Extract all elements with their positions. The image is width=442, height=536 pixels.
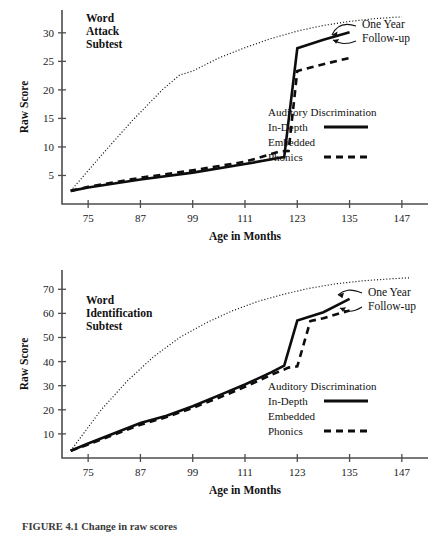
- x-axis-tick-label: 99: [187, 212, 199, 224]
- y-axis-tick-label: 30: [43, 380, 55, 392]
- x-axis-tick-label: 87: [135, 212, 147, 224]
- y-axis-title: Raw Score: [18, 81, 30, 134]
- chart-panel-word-identification: 10203040506070758799111123135147Age in M…: [0, 262, 442, 514]
- y-axis-tick-label: 25: [43, 55, 55, 67]
- x-axis-tick-label: 123: [289, 466, 306, 478]
- annotation-line: Follow-up: [368, 300, 416, 313]
- legend-label: In-Depth: [268, 395, 308, 407]
- legend-label: Phonics: [268, 425, 303, 437]
- y-axis-title: Raw Score: [18, 338, 30, 391]
- y-axis-tick-label: 50: [43, 331, 55, 343]
- chart-axes: [62, 270, 428, 458]
- y-axis-tick-label: 5: [49, 169, 55, 181]
- figure-caption: FIGURE 4.1 Change in raw scores: [22, 521, 422, 532]
- legend-label: Auditory Discrimination: [268, 380, 377, 392]
- annotation-arrow-head: [338, 293, 344, 299]
- panel-title-line: Attack: [86, 25, 120, 37]
- y-axis-tick-label: 10: [43, 141, 55, 153]
- legend-label: Embedded: [268, 410, 316, 422]
- y-axis-tick-label: 20: [43, 404, 55, 416]
- x-axis-tick-label: 147: [394, 212, 411, 224]
- y-axis-tick-label: 30: [43, 27, 55, 39]
- x-axis-tick-label: 147: [394, 466, 411, 478]
- panel-title-line: Word: [86, 294, 115, 306]
- x-axis-tick-label: 135: [341, 466, 358, 478]
- legend-label: Embedded: [268, 136, 316, 148]
- annotation-line: Follow-up: [362, 32, 410, 45]
- panel-title-line: Subtest: [86, 320, 123, 332]
- y-axis-tick-label: 10: [43, 428, 55, 440]
- chart-panel-word-attack: 51015202530758799111123135147Age in Mont…: [0, 0, 442, 262]
- legend-label: In-Depth: [268, 121, 308, 133]
- chart-svg-word-attack: 51015202530758799111123135147Age in Mont…: [0, 0, 442, 262]
- x-axis-tick-label: 75: [83, 212, 95, 224]
- y-axis-tick-label: 15: [43, 112, 55, 124]
- y-axis-tick-label: 70: [43, 283, 55, 295]
- x-axis-tick-label: 123: [289, 212, 306, 224]
- x-axis-tick-label: 111: [237, 212, 253, 224]
- panel-title-line: Subtest: [86, 38, 123, 50]
- figure-container: 51015202530758799111123135147Age in Mont…: [0, 0, 442, 536]
- x-axis-title: Age in Months: [209, 484, 282, 497]
- x-axis-title: Age in Months: [209, 230, 282, 243]
- annotation-line: One Year: [362, 18, 405, 30]
- series-line-dotted: [71, 278, 411, 451]
- y-axis-tick-label: 40: [43, 356, 55, 368]
- panel-title-line: Identification: [86, 307, 153, 319]
- y-axis-tick-label: 20: [43, 84, 55, 96]
- chart-svg-word-identification: 10203040506070758799111123135147Age in M…: [0, 262, 442, 514]
- panel-title-line: Word: [86, 12, 115, 24]
- legend-label: Auditory Discrimination: [268, 106, 377, 118]
- x-axis-tick-label: 87: [135, 466, 147, 478]
- x-axis-tick-label: 99: [187, 466, 199, 478]
- x-axis-tick-label: 135: [341, 212, 358, 224]
- x-axis-tick-label: 75: [83, 466, 95, 478]
- y-axis-tick-label: 60: [43, 307, 55, 319]
- legend-label: Phonics: [268, 151, 303, 163]
- x-axis-tick-label: 111: [237, 466, 253, 478]
- annotation-line: One Year: [368, 286, 411, 298]
